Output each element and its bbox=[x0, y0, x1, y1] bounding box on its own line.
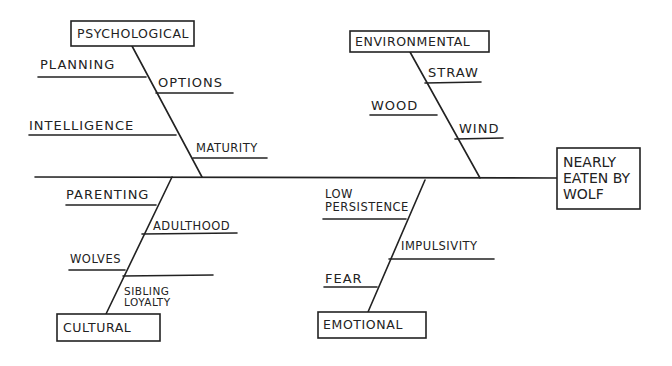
category-label-environmental: Environmental bbox=[355, 35, 470, 48]
cause-impulsivity: Impulsivity bbox=[401, 241, 478, 252]
cause-maturity: Maturity bbox=[196, 143, 258, 154]
cause-planning: Planning bbox=[40, 58, 115, 71]
cause-adulthood: Adulthood bbox=[153, 221, 230, 232]
blank-cause-line bbox=[123, 275, 213, 276]
cause-parenting: Parenting bbox=[66, 188, 149, 201]
effect-line-2: Eaten by bbox=[563, 170, 630, 186]
effect-line-3: Wolf bbox=[563, 186, 630, 202]
cause-intelligence: Intelligence bbox=[29, 119, 134, 132]
effect-label: Nearly Eaten by Wolf bbox=[563, 154, 630, 202]
straw-line bbox=[425, 82, 481, 83]
effect-line-1: Nearly bbox=[563, 154, 630, 170]
cause-loyalty-line: Loyalty bbox=[124, 297, 171, 308]
cause-straw: Straw bbox=[428, 66, 479, 79]
cause-fear: Fear bbox=[325, 272, 363, 285]
category-label-cultural: Cultural bbox=[63, 321, 131, 334]
cause-wood: Wood bbox=[371, 99, 418, 112]
psychological-bone bbox=[132, 46, 202, 177]
wind-line bbox=[455, 138, 503, 139]
fishbone-diagram: Psychological Environmental Cultural Emo… bbox=[0, 0, 672, 366]
cause-persistence-line: Persistence bbox=[325, 201, 409, 214]
category-label-emotional: Emotional bbox=[323, 318, 403, 331]
cause-wind: Wind bbox=[459, 122, 499, 135]
cause-options: Options bbox=[158, 76, 223, 89]
cause-sibling-loyalty: Sibling Loyalty bbox=[124, 286, 171, 308]
category-label-psychological: Psychological bbox=[77, 27, 189, 40]
cause-wolves: Wolves bbox=[70, 254, 121, 265]
cause-low-persistence: Low Persistence bbox=[325, 188, 409, 214]
adulthood-line bbox=[142, 233, 237, 234]
